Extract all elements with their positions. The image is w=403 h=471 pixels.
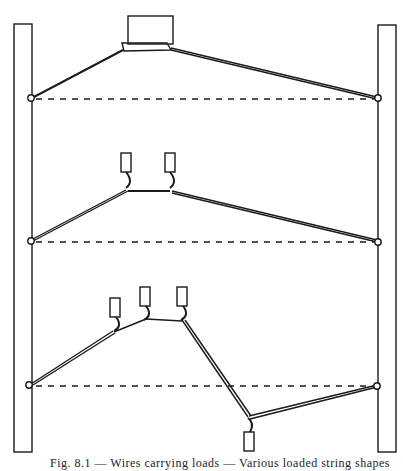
weight [165, 153, 175, 172]
panel-four-weights [26, 287, 380, 451]
weight [110, 298, 120, 317]
weight [121, 153, 131, 172]
panel-single-block [28, 16, 381, 101]
figure-caption: Fig. 8.1 — Wires carrying loads — Variou… [50, 456, 390, 471]
load-block [128, 16, 173, 44]
right-post [378, 25, 396, 452]
weight [244, 432, 254, 451]
panel-two-weights [28, 153, 381, 245]
weight [177, 287, 187, 306]
pivot-right [375, 95, 381, 101]
pivot-left [28, 95, 34, 101]
weight [140, 287, 150, 306]
